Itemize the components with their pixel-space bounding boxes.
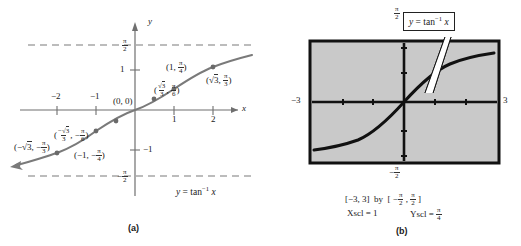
x-tick-label--2: −2 <box>51 92 61 101</box>
curve-arrow-left <box>10 161 23 170</box>
x-tick-label-1: 1 <box>172 115 177 124</box>
screen-left-label: −3 <box>291 96 301 105</box>
y-tick-label-1: 1 <box>120 65 125 74</box>
panel-b-caption: (b) <box>396 227 408 236</box>
pi-symbol: π <box>122 38 128 45</box>
callout-equation-box: y = tan−1 x <box>403 12 455 31</box>
x-axis-label: x <box>242 104 246 113</box>
plot-point <box>55 151 60 156</box>
point-label-sqrt3-pi-3: (√3, π3) <box>206 73 231 88</box>
y-axis-label: y <box>148 17 152 26</box>
point-label-sqrt3-3-pi-6: (√33, π6) <box>154 83 179 98</box>
screen-top-label: π2 <box>394 6 400 21</box>
plot-point <box>114 119 119 124</box>
x-tick-label--1: −1 <box>90 92 100 101</box>
figure-container: y x −2 −1 1 2 1 −1 (0, 0) π2 −π2 (1, π4)… <box>0 0 521 246</box>
yscl-text: Yscl = <box>410 209 434 219</box>
point-label-1-pi-4: (1, π4) <box>166 60 187 75</box>
plot-point <box>94 129 99 134</box>
window-x-range: [−3, 3] <box>345 194 370 204</box>
point-label-neg-sqrt3-3-neg-pi-6: (−√33, −π6) <box>54 128 88 143</box>
plot-point <box>211 65 216 70</box>
screen-bottom-label: −π2 <box>389 165 400 180</box>
y-tick-label--1: −1 <box>143 145 153 154</box>
window-range-line: [−3, 3] by [ −π2 , π2 ] <box>345 192 421 207</box>
asymptote-upper-label: π2 <box>122 38 128 53</box>
origin-label: (0, 0) <box>113 97 133 106</box>
xscl-label: Xscl = 1 <box>347 209 378 218</box>
x-tick-label-2: 2 <box>211 115 216 124</box>
y-axis-arrow <box>132 22 138 31</box>
window-by-word: by <box>374 194 383 204</box>
yscl-label: Yscl = π4 <box>410 207 442 222</box>
x-axis-arrow <box>231 107 238 113</box>
point-label-neg-1-neg-pi-4: (−1, −π4) <box>74 148 105 163</box>
panel-a-graph <box>0 0 521 246</box>
point-label-neg-sqrt3-neg-pi-3: (−√3, −π3) <box>14 140 50 155</box>
asymptote-lower-label: −π2 <box>117 169 128 184</box>
panel-a-caption: (a) <box>128 224 139 233</box>
screen-right-label: 3 <box>503 96 508 105</box>
panel-a-equation: y = tan−1 x <box>176 186 216 198</box>
